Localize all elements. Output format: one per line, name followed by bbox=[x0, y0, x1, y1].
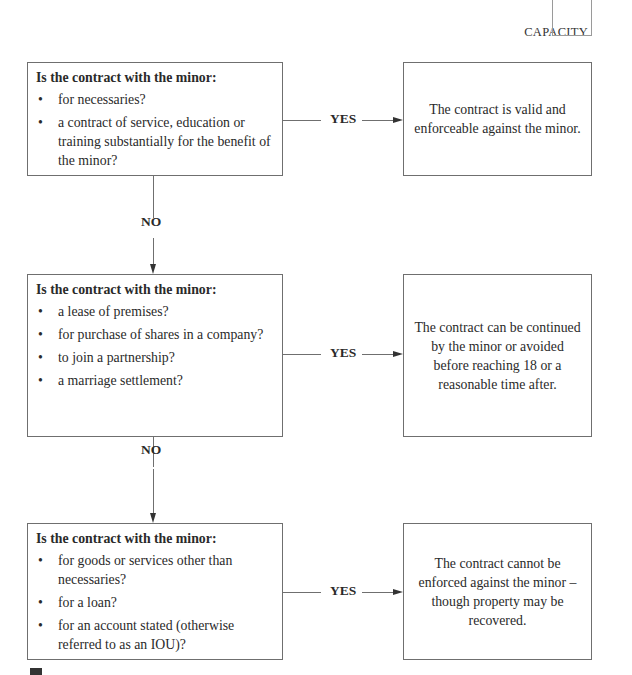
criteria-list: a lease of premises? for purchase of sha… bbox=[36, 302, 272, 390]
question-box-1: Is the contract with the minor: for nece… bbox=[27, 62, 283, 176]
connector-yes-2b bbox=[362, 354, 394, 355]
list-item: for an account stated (otherwise referre… bbox=[36, 616, 272, 654]
question-box-3: Is the contract with the minor: for good… bbox=[27, 523, 283, 660]
outcome-box-3: The contract cannot be enforced against … bbox=[403, 523, 592, 660]
list-item: a marriage settlement? bbox=[36, 371, 272, 390]
connector-no-1a bbox=[153, 176, 154, 218]
arrow-down-icon bbox=[150, 513, 156, 523]
outcome-box-2: The contract can be continued by the min… bbox=[403, 274, 592, 437]
arrow-right-icon bbox=[393, 589, 403, 595]
outcome-text: The contract can be continued by the min… bbox=[414, 318, 581, 394]
connector-yes-3b bbox=[362, 592, 394, 593]
arrow-down-icon bbox=[150, 264, 156, 274]
connector-yes-1a bbox=[283, 120, 321, 121]
list-item: to join a partnership? bbox=[36, 348, 272, 367]
connector-no-2b bbox=[153, 469, 154, 515]
question-title: Is the contract with the minor: bbox=[36, 70, 272, 86]
outcome-box-1: The contract is valid and enforceable ag… bbox=[403, 62, 592, 176]
no-label-2: NO bbox=[141, 442, 161, 458]
yes-label-1: YES bbox=[330, 111, 356, 127]
question-title: Is the contract with the minor: bbox=[36, 282, 272, 298]
outcome-text: The contract is valid and enforceable ag… bbox=[414, 100, 581, 138]
list-item: for purchase of shares in a company? bbox=[36, 325, 272, 344]
criteria-list: for necessaries? a contract of service, … bbox=[36, 90, 272, 170]
arrow-right-icon bbox=[393, 351, 403, 357]
list-item: a contract of service, education or trai… bbox=[36, 113, 272, 170]
connector-yes-2a bbox=[283, 354, 321, 355]
connector-yes-3a bbox=[283, 592, 321, 593]
yes-label-3: YES bbox=[330, 583, 356, 599]
connector-no-1b bbox=[153, 238, 154, 266]
section-tab-box bbox=[552, 0, 592, 36]
outcome-text: The contract cannot be enforced against … bbox=[414, 554, 581, 630]
list-item: a lease of premises? bbox=[36, 302, 272, 321]
list-item: for necessaries? bbox=[36, 90, 272, 109]
no-label-1: NO bbox=[141, 214, 161, 230]
list-item: for a loan? bbox=[36, 593, 272, 612]
list-item: for goods or services other than necessa… bbox=[36, 551, 272, 589]
question-box-2: Is the contract with the minor: a lease … bbox=[27, 274, 283, 437]
yes-label-2: YES bbox=[330, 345, 356, 361]
question-title: Is the contract with the minor: bbox=[36, 531, 272, 547]
arrow-right-icon bbox=[393, 117, 403, 123]
criteria-list: for goods or services other than necessa… bbox=[36, 551, 272, 654]
connector-yes-1b bbox=[362, 120, 394, 121]
page-footer-mark bbox=[30, 668, 42, 675]
